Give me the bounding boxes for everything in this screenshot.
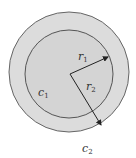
inner-circle-c1 (25, 30, 113, 118)
concentric-circles-diagram: r1 r2 c1 c2 (0, 0, 136, 158)
label-c2: c2 (82, 142, 93, 156)
